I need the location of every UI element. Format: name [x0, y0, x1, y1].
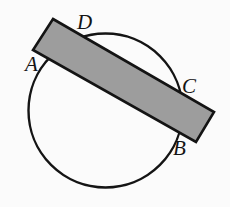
- vertex-label-c: C: [182, 76, 196, 97]
- vertex-label-d: D: [77, 12, 92, 33]
- geometry-figure: A B C D: [0, 0, 230, 207]
- vertex-label-b: B: [173, 138, 186, 159]
- vertex-label-a: A: [25, 54, 38, 75]
- figure-canvas: [0, 0, 230, 207]
